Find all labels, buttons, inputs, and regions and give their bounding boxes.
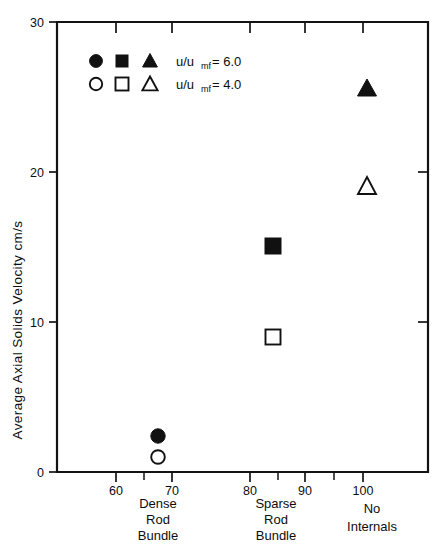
legend-label-value-1: = 6.0 [212,54,241,69]
datapoint-circle-filled [151,429,165,443]
scatter-plot-svg: 30 20 10 0 Average Axial Solids Velocity… [0,0,445,544]
x-tick-label-60: 60 [109,484,123,498]
y-tick-label-0: 0 [37,466,44,480]
y-tick-label-10: 10 [30,316,44,330]
legend-label-numerator-1: u/u [176,54,194,69]
legend-label-value-2: = 4.0 [212,77,241,92]
legend-label-subscript-2: mf [201,84,211,94]
circle-filled-icon [90,55,103,68]
circle-open-icon [90,78,102,90]
y-axis-title: Average Axial Solids Velocity cm/s [10,221,25,440]
category-line-1: No [364,501,381,516]
datapoint-circle-open [151,450,165,464]
legend-label-subscript-1: mf [201,61,211,71]
category-line-3: Bundle [256,528,296,543]
square-open-icon [116,78,129,91]
category-line-1: Sparse [255,496,296,511]
x-tick-label-90: 90 [298,484,312,498]
y-tick-label-30: 30 [30,16,44,30]
square-filled-icon [116,55,128,67]
datapoint-square-open [266,330,281,345]
chart-figure: 30 20 10 0 Average Axial Solids Velocity… [0,0,445,544]
category-line-1: Dense [139,496,177,511]
category-line-3: Bundle [138,528,178,543]
legend-label-numerator-2: u/u [176,77,194,92]
category-line-2: Rod [264,512,288,527]
category-line-2: Rod [146,512,170,527]
x-tick-label-100: 100 [353,484,374,498]
datapoint-square-filled [265,238,281,254]
category-line-2: Internals [347,519,397,534]
y-tick-label-20: 20 [30,166,44,180]
